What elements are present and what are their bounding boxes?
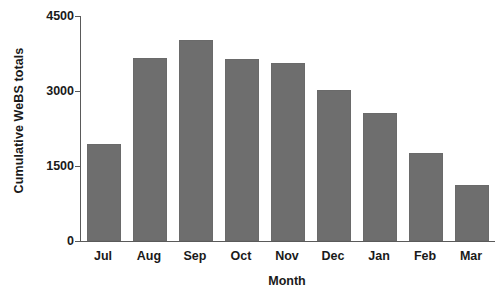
bar (271, 63, 306, 241)
bar (317, 90, 352, 241)
y-axis-title: Cumulative WeBS totals (12, 0, 34, 241)
x-tick-label: Feb (414, 249, 436, 263)
y-tick-label: 0 (0, 234, 74, 248)
bar (455, 185, 490, 241)
y-tick-label: 4500 (0, 9, 74, 23)
x-tick-label: Aug (137, 249, 161, 263)
bar (225, 59, 260, 241)
bar-chart: Cumulative WeBS totals 0150030004500 Jul… (0, 0, 504, 300)
y-tick-label: 1500 (0, 159, 74, 173)
x-tick-label: Jan (368, 249, 390, 263)
y-tick-label: 3000 (0, 84, 74, 98)
x-tick-label: Jul (94, 249, 112, 263)
plot-area (80, 16, 495, 242)
bar (363, 113, 398, 242)
bar (179, 40, 214, 241)
x-tick-label: Nov (275, 249, 299, 263)
x-tick-label: Oct (231, 249, 252, 263)
x-tick-label: Mar (460, 249, 482, 263)
bar (87, 144, 122, 242)
x-axis-title: Month (80, 274, 494, 288)
x-tick-label: Sep (184, 249, 207, 263)
bar (133, 58, 168, 241)
bar (409, 153, 444, 241)
x-tick-label: Dec (322, 249, 345, 263)
